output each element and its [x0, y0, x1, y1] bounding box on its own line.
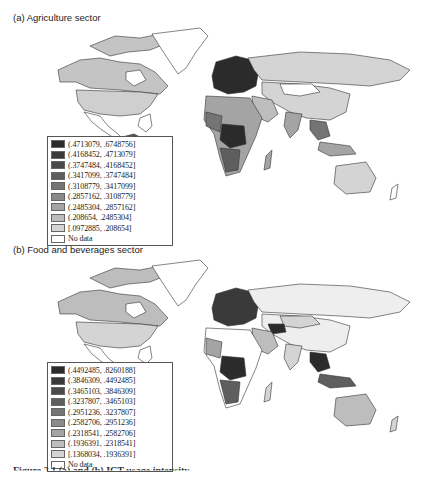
legend-swatch — [51, 224, 65, 232]
legend-item: (.3747484, .4168452] — [51, 160, 169, 170]
legend-item: (.3237807, .3465103] — [51, 397, 169, 407]
legend-swatch — [51, 429, 65, 437]
legend-label: (.2485304, .2857162] — [68, 203, 135, 212]
legend-label: (.1936391, .2318541] — [68, 439, 135, 448]
legend-label: (.2857162, .3108779] — [68, 192, 135, 201]
legend-swatch — [51, 408, 65, 416]
legend-item: (.3108779, .3417099] — [51, 181, 169, 191]
legend-item: (.4492485, .8260188] — [51, 365, 169, 375]
legend-item: (.2857162, .3108779] — [51, 192, 169, 202]
legend-label: (.3108779, .3417099] — [68, 182, 135, 191]
legend-item: (.4713079, .6748756] — [51, 139, 169, 149]
legend-label: [.1368034, .1936391] — [68, 450, 135, 459]
legend-label: (.208654, .2485304] — [68, 213, 131, 222]
legend-label: [.0972885, .208654] — [68, 224, 131, 233]
legend-swatch — [51, 366, 65, 374]
legend-label: (.3417099, .3747484] — [68, 171, 135, 180]
legend-label: (.4168452, .4713079] — [68, 150, 135, 159]
legend-swatch — [51, 377, 65, 385]
legend-swatch — [51, 193, 65, 201]
legend-label: (.3237807, .3465103] — [68, 397, 135, 406]
legend-swatch — [51, 161, 65, 169]
legend-label: (.2951236, .3237807] — [68, 408, 135, 417]
legend-swatch — [51, 235, 65, 243]
legend-swatch — [51, 419, 65, 427]
legend-swatch — [51, 450, 65, 458]
legend-item: (.2582706, .2951236] — [51, 418, 169, 428]
legend-swatch — [51, 398, 65, 406]
legend-item: No data — [51, 234, 169, 244]
legend-label: (.3465103, .3846309] — [68, 387, 135, 396]
legend-item: (.3846309, .4492485] — [51, 376, 169, 386]
legend-label: (.2582706, .2951236] — [68, 418, 135, 427]
legend-item: (.208654, .2485304] — [51, 213, 169, 223]
legend-label: No data — [68, 234, 92, 243]
legend-swatch — [51, 182, 65, 190]
legend-label: (.3747484, .4168452] — [68, 161, 135, 170]
legend-agriculture: (.4713079, .6748756] (.4168452, .4713079… — [47, 136, 173, 246]
legend-item: [.0972885, .208654] — [51, 223, 169, 233]
legend-item: (.2485304, .2857162] — [51, 202, 169, 212]
legend-swatch — [51, 440, 65, 448]
legend-item: (.2318541, .2582706] — [51, 428, 169, 438]
legend-swatch — [51, 140, 65, 148]
legend-item: (.4168452, .4713079] — [51, 150, 169, 160]
legend-label: (.4492485, .8260188] — [68, 366, 135, 375]
legend-label: (.3846309, .4492485] — [68, 376, 135, 385]
legend-item: (.2951236, .3237807] — [51, 407, 169, 417]
legend-swatch — [51, 203, 65, 211]
legend-swatch — [51, 172, 65, 180]
legend-label: (.4713079, .6748756] — [68, 140, 135, 149]
legend-label: (.2318541, .2582706] — [68, 429, 135, 438]
legend-item: (.3417099, .3747484] — [51, 171, 169, 181]
legend-food-beverages: (.4492485, .8260188] (.3846309, .4492485… — [47, 362, 173, 472]
legend-swatch — [51, 151, 65, 159]
legend-item: (.3465103, .3846309] — [51, 386, 169, 396]
legend-item: [.1368034, .1936391] — [51, 449, 169, 459]
legend-item: (.1936391, .2318541] — [51, 439, 169, 449]
legend-swatch — [51, 214, 65, 222]
legend-swatch — [51, 387, 65, 395]
